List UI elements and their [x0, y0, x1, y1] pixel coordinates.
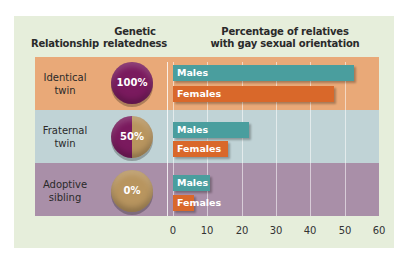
- row-label-identical-twin: Identical twin: [35, 71, 95, 97]
- header-relationship-text: Relationship: [31, 38, 99, 49]
- x-tick-60: 60: [369, 225, 389, 236]
- bar-label-females: Females: [177, 86, 221, 102]
- x-tick-20: 20: [232, 225, 252, 236]
- gridline-50: [345, 62, 346, 216]
- row-label-line1: Adoptive: [35, 178, 95, 191]
- x-tick-40: 40: [300, 225, 320, 236]
- row-label-line1: Fraternal: [35, 124, 95, 137]
- row-label-line2: twin: [35, 84, 95, 97]
- x-tick-50: 50: [335, 225, 355, 236]
- row-label-line1: Identical: [35, 71, 95, 84]
- header-genetic-line2: relatedness: [102, 38, 168, 50]
- row-label-line2: sibling: [35, 191, 95, 204]
- relatedness-value: 50%: [111, 116, 153, 158]
- chart-title-line2: with gay sexual orientation: [190, 38, 380, 50]
- chart-title: Percentage of relatives with gay sexual …: [190, 26, 380, 50]
- header-relationship: Relationship: [30, 38, 100, 50]
- x-tick-10: 10: [197, 225, 217, 236]
- row-label-line2: twin: [35, 137, 95, 150]
- bar-label-males: Males: [177, 122, 208, 138]
- header-genetic-relatedness: Genetic relatedness: [102, 26, 168, 50]
- row-label-adoptive-sibling: Adoptive sibling: [35, 178, 95, 204]
- header-genetic-line1: Genetic: [102, 26, 168, 38]
- relatedness-value: 100%: [111, 62, 153, 104]
- bar-label-males: Males: [177, 175, 208, 191]
- relatedness-value: 0%: [111, 170, 153, 212]
- bar-label-females: Females: [177, 141, 221, 157]
- bar-label-males: Males: [177, 65, 208, 81]
- row-label-fraternal-twin: Fraternal twin: [35, 124, 95, 150]
- x-tick-30: 30: [266, 225, 286, 236]
- bar-label-females: Females: [177, 195, 221, 211]
- x-tick-0: 0: [163, 225, 183, 236]
- column-divider: [167, 62, 168, 216]
- chart-title-line1: Percentage of relatives: [190, 26, 380, 38]
